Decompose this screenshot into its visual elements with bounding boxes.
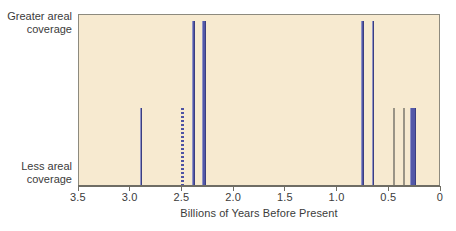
x-tick-label-1.0: 1.0: [329, 191, 345, 203]
chart-figure: Greater areal coverage Less areal covera…: [0, 0, 456, 231]
bar-glaciation-2.9: [140, 108, 142, 185]
x-tick-label-1.5: 1.5: [277, 191, 293, 203]
bar-glaciation-0.30: [410, 108, 417, 185]
bar-glaciation-0.45: [393, 108, 395, 185]
bar-glaciation-0.36: [403, 108, 405, 185]
y-axis-label-bottom: Less areal coverage: [0, 160, 72, 186]
bar-glaciation-2.39: [192, 21, 195, 185]
bar-glaciation-0.66: [372, 21, 374, 185]
x-tick-label-3.5: 3.5: [70, 191, 86, 203]
x-axis-line: [78, 185, 440, 187]
x-tick-label-2.0: 2.0: [225, 191, 241, 203]
bar-glaciation-2.29: [202, 21, 205, 185]
y-axis-label-top: Greater areal coverage: [0, 10, 72, 36]
x-axis-title: Billions of Years Before Present: [78, 207, 440, 219]
bars-layer: [79, 15, 439, 185]
bar-glaciation-0.00: [439, 108, 440, 185]
x-tick-label-3.0: 3.0: [122, 191, 138, 203]
x-tick-label-2.5: 2.5: [173, 191, 189, 203]
x-tick-label-0: 0: [437, 191, 443, 203]
x-tick-label-0.5: 0.5: [380, 191, 396, 203]
bar-glaciation-2.50: [181, 108, 184, 185]
plot-area: [78, 14, 440, 186]
bar-glaciation-0.76: [361, 21, 363, 185]
